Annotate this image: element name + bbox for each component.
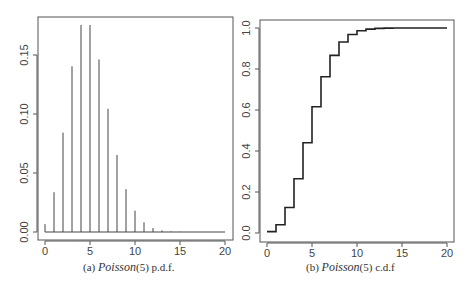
- caption-label: (b): [306, 261, 319, 273]
- caption-suffix: p.d.f.: [152, 261, 175, 273]
- x-tick-label: 0: [264, 247, 270, 259]
- y-tick-label: 1.0: [240, 20, 252, 35]
- x-axis: 05101520: [42, 241, 231, 257]
- step-line: [267, 28, 447, 232]
- plot-frame: [38, 17, 233, 240]
- y-tick-label: 0.0: [240, 225, 252, 240]
- caption-label: (a): [83, 261, 95, 273]
- y-tick-label: 0.10: [18, 103, 30, 124]
- y-tick-label: 0.2: [240, 184, 252, 199]
- x-tick-label: 0: [42, 245, 48, 257]
- y-tick-label: 0.8: [240, 61, 252, 76]
- caption-param: (5): [360, 261, 373, 273]
- pdf-panel: 051015200.000.050.100.15: [18, 17, 233, 257]
- x-tick-label: 15: [396, 247, 408, 259]
- cdf-panel: 051015200.00.20.40.60.81.0: [240, 20, 454, 259]
- caption-dist: Poisson: [98, 260, 136, 274]
- x-tick-label: 20: [219, 245, 231, 257]
- caption-dist: Poisson: [322, 260, 360, 274]
- plot-frame: [260, 20, 454, 242]
- data-series: [45, 25, 225, 232]
- y-tick-label: 0.4: [240, 143, 252, 158]
- cdf-caption: (b) Poisson(5) c.d.f: [306, 260, 395, 275]
- y-axis: 0.000.050.100.15: [18, 44, 37, 242]
- pdf-caption: (a) Poisson(5) p.d.f.: [83, 260, 174, 275]
- x-axis: 05101520: [264, 243, 453, 259]
- y-tick-label: 0.6: [240, 102, 252, 117]
- y-tick-label: 0.15: [18, 44, 30, 65]
- x-tick-label: 20: [441, 247, 453, 259]
- y-axis: 0.00.20.40.60.81.0: [240, 20, 259, 240]
- x-tick-label: 10: [351, 247, 363, 259]
- y-tick-label: 0.00: [18, 221, 30, 242]
- caption-suffix: c.d.f: [375, 261, 395, 273]
- data-series: [267, 28, 447, 232]
- x-tick-label: 5: [309, 247, 315, 259]
- x-tick-label: 10: [129, 245, 141, 257]
- y-tick-label: 0.05: [18, 162, 30, 183]
- caption-param: (5): [136, 261, 149, 273]
- x-tick-label: 15: [174, 245, 186, 257]
- x-tick-label: 5: [87, 245, 93, 257]
- figure: 051015200.000.050.100.15 051015200.00.20…: [0, 0, 473, 289]
